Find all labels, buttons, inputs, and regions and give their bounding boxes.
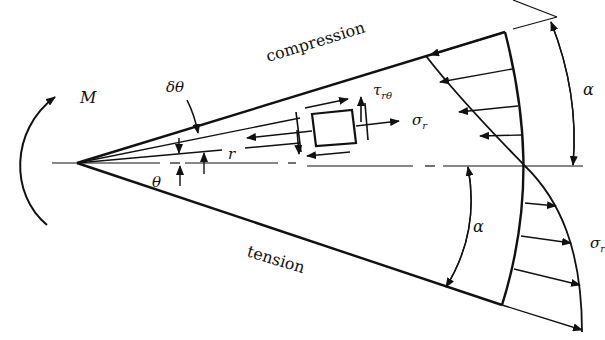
- tension-label: tension: [245, 242, 307, 278]
- sigma-distribution-label: σr: [590, 234, 605, 254]
- element-radial-lines: [77, 118, 300, 163]
- theta-angle-arrows: [179, 138, 204, 186]
- alpha-bottom-label: α: [473, 217, 484, 236]
- wedge-stress-diagram: M δθ θ r: [0, 0, 605, 340]
- stress-element: [247, 97, 399, 156]
- moment-label: M: [79, 88, 97, 107]
- delta-theta-label: δθ: [166, 78, 184, 96]
- radius-label: r: [228, 145, 236, 163]
- center-axis: [52, 163, 583, 166]
- tension-stress-arrows: [502, 203, 582, 330]
- sigma-element-label: σr: [412, 111, 428, 131]
- alpha-top-label: α: [583, 80, 594, 99]
- compression-label: compression: [264, 18, 368, 66]
- theta-label: θ: [152, 173, 161, 191]
- alpha-bottom-dimension: [446, 167, 471, 287]
- moment-arrow: [20, 97, 55, 225]
- tau-label: τrθ: [373, 81, 392, 101]
- stress-distribution-curve: [426, 56, 582, 332]
